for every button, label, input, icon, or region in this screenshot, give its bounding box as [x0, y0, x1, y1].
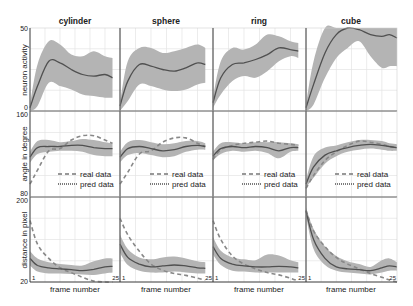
- xtick-25-ring: 25: [298, 275, 305, 281]
- xtick-25-sph: 25: [205, 275, 212, 281]
- legend-sphere: real data pred data: [150, 170, 206, 189]
- xtick-1-cube: 1: [308, 275, 312, 281]
- uncertainty-band: [213, 142, 298, 160]
- ytick-50: 50: [20, 25, 28, 32]
- ytick-20: 20: [20, 278, 28, 285]
- ytick-80: 80: [20, 190, 28, 197]
- xlabel-cylinder: frame number: [50, 285, 100, 294]
- xlabel-ring: frame number: [234, 285, 284, 294]
- legend-real-label: real data: [357, 170, 389, 179]
- xlabel-cube: frame number: [326, 285, 376, 294]
- uncertainty-band: [30, 139, 113, 163]
- title-cylinder: cylinder: [59, 16, 92, 26]
- legend-real-label: real data: [264, 170, 296, 179]
- uncertainty-band: [30, 251, 113, 275]
- legend-cube: real data pred data: [335, 170, 391, 189]
- xtick-25-cube: 25: [389, 275, 396, 281]
- legend-real-label: real data: [172, 170, 204, 179]
- ytick-160: 160: [16, 111, 28, 118]
- xtick-1-sph: 1: [122, 275, 126, 281]
- xlabel-sphere: frame number: [141, 285, 191, 294]
- uncertainty-band: [120, 235, 205, 274]
- legend-pred-label: pred data: [80, 180, 114, 189]
- ylabel-distance: distance in pixel: [20, 211, 29, 268]
- figure: cylinder sphere ring cube neuron activit…: [0, 0, 413, 306]
- xtick-1-cyl: 1: [32, 275, 36, 281]
- legend-cylinder: real data pred data: [58, 170, 114, 189]
- title-ring: ring: [251, 16, 267, 26]
- xtick-25-cyl: 25: [112, 275, 119, 281]
- ytick-0: 0: [24, 104, 28, 111]
- ylabel-neuron-activity: neuron activity: [20, 44, 29, 96]
- legend-pred-label: pred data: [357, 180, 391, 189]
- legend-pred-label: pred data: [172, 180, 206, 189]
- title-sphere: sphere: [152, 16, 180, 26]
- title-cube: cube: [341, 16, 361, 26]
- xtick-1-ring: 1: [215, 275, 219, 281]
- legend-ring: real data pred data: [242, 170, 298, 189]
- legend-real-label: real data: [80, 170, 112, 179]
- ylabel-angle: angle in degree: [20, 126, 29, 182]
- ytick-200: 200: [16, 197, 28, 204]
- legend-pred-label: pred data: [264, 180, 298, 189]
- uncertainty-band: [120, 45, 205, 111]
